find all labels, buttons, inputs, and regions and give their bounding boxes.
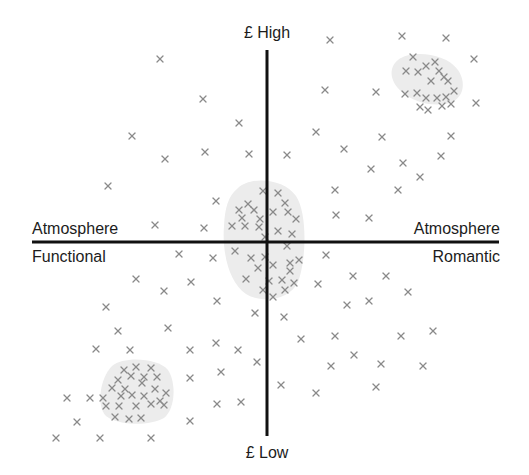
scatter-marker-icon [93,346,99,352]
scatter-marker-icon [332,187,338,193]
scatter-marker-icon [333,212,339,218]
atmosphere-right-title-label: Atmosphere [414,220,500,238]
scatter-marker-icon [322,87,328,93]
scatter-marker-icon [236,120,242,126]
scatter-marker-icon [417,174,423,180]
functional-label: Functional [32,248,106,266]
scatter-marker-icon [315,281,321,287]
scatter-marker-icon [443,35,449,41]
scatter-marker-icon [281,314,287,320]
scatter-marker-icon [351,352,357,358]
scatter-marker-icon [471,56,477,62]
scatter-marker-icon [328,363,334,369]
scatter-marker-icon [400,160,406,166]
scatter-marker-icon [87,395,93,401]
scatter-marker-icon [298,336,304,342]
scatter-marker-icon [115,328,121,334]
scatter-marker-icon [313,129,319,135]
scatter-marker-icon [373,384,379,390]
cluster-marker-icon [417,104,423,110]
scatter-marker-icon [157,56,163,62]
price-high-label: £ High [226,24,308,42]
scatter-marker-icon [238,399,244,405]
scatter-marker-icon [187,347,193,353]
scatter-marker-icon [218,369,224,375]
scatter-marker-icon [252,310,258,316]
scatter-marker-icon [379,134,385,140]
scatter-marker-icon [165,325,171,331]
scatter-marker-icon [366,298,372,304]
scatter-marker-icon [214,298,220,304]
scatter-marker-icon [161,288,167,294]
scatter-marker-icon [103,304,109,310]
scatter-marker-icon [332,333,338,339]
scatter-marker-icon [64,395,70,401]
scatter-marker-icon [473,100,479,106]
scatter-marker-icon [313,390,319,396]
scatter-marker-icon [323,252,329,258]
scatter-marker-icon [438,153,444,159]
scatter-marker-icon [129,133,135,139]
scatter-marker-icon [327,37,333,43]
scatter-marker-icon [127,347,133,353]
scatter-marker-icon [162,156,168,162]
scatter-marker-icon [210,255,216,261]
scatter-marker-icon [430,328,436,334]
scatter-marker-icon [200,96,206,102]
scatter-marker-icon [213,340,219,346]
romantic-label: Romantic [432,248,500,266]
scatter-marker-icon [97,435,103,441]
scatter-marker-icon [278,382,284,388]
scatter-marker-icon [148,435,154,441]
scatter-marker-icon [133,276,139,282]
scatter-marker-icon [341,146,347,152]
scatter-marker-icon [405,289,411,295]
scatter-marker-icon [187,375,193,381]
scatter-marker-icon [448,133,454,139]
cluster-layer [100,54,463,424]
price-low-label: £ Low [226,444,308,462]
scatter-marker-icon [284,152,290,158]
atmosphere-left-title-label: Atmosphere [32,220,118,238]
scatter-marker-icon [152,222,158,228]
scatter-marker-icon [398,333,404,339]
scatter-marker-icon [201,225,207,231]
scatter-marker-icon [187,418,193,424]
scatter-marker-icon [350,273,356,279]
scatter-marker-icon [188,279,194,285]
scatter-marker-icon [366,215,372,221]
scatter-marker-icon [344,302,350,308]
scatter-marker-icon [373,89,379,95]
scatter-marker-icon [176,251,182,257]
cluster-marker-icon [425,107,431,113]
scatter-marker-icon [420,363,426,369]
scatter-marker-icon [214,401,220,407]
scatter-marker-icon [105,183,111,189]
low-price-functional-cluster-region [100,360,173,424]
scatter-marker-icon [213,198,219,204]
scatter-marker-icon [395,187,401,193]
scatter-marker-icon [254,359,260,365]
scatter-marker-icon [74,419,80,425]
scatter-marker-icon [53,435,59,441]
scatter-marker-icon [246,151,252,157]
scatter-marker-icon [378,361,384,367]
scatter-marker-icon [235,347,241,353]
scatter-marker-icon [202,149,208,155]
scatter-marker-icon [368,166,374,172]
scatter-marker-icon [399,33,405,39]
scatter-marker-icon [383,273,389,279]
